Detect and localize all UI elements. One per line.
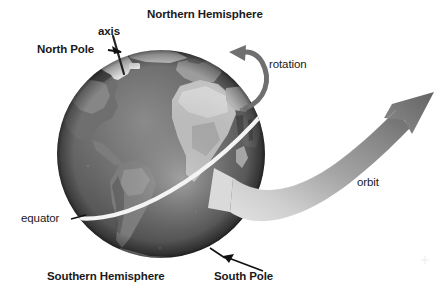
label-south-pole: South Pole (214, 271, 273, 283)
globe-rim-shade (57, 50, 265, 258)
globe (57, 48, 268, 268)
label-equator: equator (21, 213, 59, 225)
label-orbit: orbit (357, 177, 379, 189)
earth-diagram: Northern Hemisphere axis North Pole rota… (0, 0, 448, 302)
south-pole-pointer (210, 248, 263, 271)
globe-landmasses (57, 48, 268, 268)
label-rotation: rotation (269, 59, 307, 71)
label-north-pole: North Pole (37, 44, 94, 56)
label-northern-hemisphere: Northern Hemisphere (147, 9, 263, 21)
label-axis: axis (98, 26, 120, 38)
rotation-arrowhead (229, 45, 246, 61)
scan-artifact (421, 256, 429, 264)
label-southern-hemisphere: Southern Hemisphere (47, 271, 165, 283)
north-pole-pointer (108, 46, 122, 54)
